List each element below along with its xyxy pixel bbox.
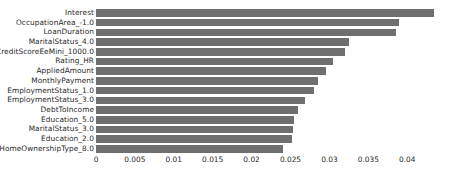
bar [96, 9, 434, 17]
bar-category-label: CreditScoreEeMini_1000.0 [0, 48, 94, 55]
bar-row: Education_2.0 [0, 134, 454, 144]
bar-category-label: Rating_HR [55, 58, 94, 65]
bar [96, 67, 326, 75]
bar-row: Rating_HR [0, 57, 454, 67]
bar-category-label: OccupationArea_-1.0 [16, 19, 94, 26]
bar-row: HomeOwnershipType_8.0 [0, 144, 454, 154]
bar-category-label: EmploymentStatus_1.0 [7, 87, 94, 94]
bar-track [96, 8, 450, 18]
bar [96, 106, 298, 114]
bar [96, 126, 293, 134]
bar-row: MaritalStatus_4.0 [0, 37, 454, 47]
bar-track [96, 47, 450, 57]
bar-row: LoanDuration [0, 27, 454, 37]
bar [96, 87, 314, 95]
bar-row: MonthlyPayment [0, 76, 454, 86]
bar-track [96, 125, 450, 135]
x-axis-tick-label: 0.01 [166, 156, 182, 163]
bar [96, 116, 294, 124]
x-axis-tick-label: 0.015 [202, 156, 223, 163]
bar-row: EmploymentStatus_3.0 [0, 95, 454, 105]
bar-track [96, 66, 450, 76]
bar-category-label: MonthlyPayment [31, 77, 94, 84]
x-axis-tick-label: 0.03 [321, 156, 337, 163]
x-axis: 00.0050.010.0150.020.0250.030.0350.04 [96, 154, 450, 178]
bar-category-label: HomeOwnershipType_8.0 [0, 145, 94, 152]
bar-category-label: AppliedAmount [37, 67, 94, 74]
bar-row: CreditScoreEeMini_1000.0 [0, 47, 454, 57]
bar-track [96, 134, 450, 144]
bar-category-label: MaritalStatus_4.0 [29, 38, 94, 45]
bar-category-label: EmploymentStatus_3.0 [7, 97, 94, 104]
bar-category-label: Interest [65, 9, 94, 16]
bar-track [96, 144, 450, 154]
bar-row: DebtToIncome [0, 105, 454, 115]
bar-row: Education_5.0 [0, 115, 454, 125]
bar [96, 145, 283, 153]
bar-track [96, 76, 450, 86]
x-axis-tick-label: 0 [94, 156, 99, 163]
bar-track [96, 57, 450, 67]
x-axis-tick-label: 0.035 [358, 156, 379, 163]
bar-row: OccupationArea_-1.0 [0, 18, 454, 28]
bar [96, 97, 305, 105]
bar-row: AppliedAmount [0, 66, 454, 76]
bar [96, 58, 333, 66]
plot-area: InterestOccupationArea_-1.0LoanDurationM… [0, 0, 454, 179]
bar-category-label: Education_2.0 [41, 136, 94, 143]
feature-importance-bar-chart: InterestOccupationArea_-1.0LoanDurationM… [0, 0, 454, 179]
bar-track [96, 27, 450, 37]
bar-track [96, 95, 450, 105]
bar-category-label: MaritalStatus_3.0 [29, 126, 94, 133]
bar-row: MaritalStatus_3.0 [0, 125, 454, 135]
bar-category-label: Education_5.0 [41, 116, 94, 123]
x-axis-tick-label: 0.005 [124, 156, 145, 163]
bar-track [96, 115, 450, 125]
bar-track [96, 105, 450, 115]
x-axis-tick-label: 0.02 [243, 156, 259, 163]
bar [96, 29, 396, 37]
bar [96, 38, 349, 46]
bar [96, 48, 345, 56]
x-axis-tick-label: 0.025 [280, 156, 301, 163]
bar [96, 135, 292, 143]
bar-track [96, 18, 450, 28]
bar [96, 19, 399, 27]
bar-category-label: LoanDuration [44, 29, 94, 36]
x-axis-tick-label: 0.04 [399, 156, 415, 163]
bar [96, 77, 318, 85]
bar-row: EmploymentStatus_1.0 [0, 86, 454, 96]
bar-rows: InterestOccupationArea_-1.0LoanDurationM… [0, 8, 454, 154]
bar-track [96, 86, 450, 96]
bar-row: Interest [0, 8, 454, 18]
bar-track [96, 37, 450, 47]
bar-category-label: DebtToIncome [41, 106, 94, 113]
